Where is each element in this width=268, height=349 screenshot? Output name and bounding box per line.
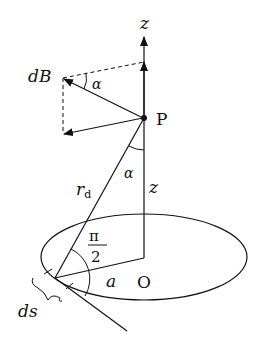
alpha-top-label: α <box>92 76 102 92</box>
dB-arrow <box>64 79 143 118</box>
z-axis-label: z <box>139 13 150 33</box>
two-label: 2 <box>91 248 101 266</box>
origin-label: O <box>137 272 151 292</box>
dB-label: dB <box>28 66 51 86</box>
dashed-top <box>63 62 144 78</box>
r-d-label: rd <box>76 179 91 201</box>
pi-label: π <box>89 227 99 245</box>
ds-label: ds <box>18 301 38 321</box>
loop-field-diagram: z dB α P α rd z π 2 a O ds <box>0 0 268 349</box>
P-label: P <box>156 109 167 129</box>
alpha-arc-mid <box>129 146 144 150</box>
tangent-line <box>55 278 127 331</box>
alpha-arc-top <box>84 73 87 89</box>
ds-brace <box>32 278 62 301</box>
dB-perp-arrow <box>64 118 143 134</box>
alpha-mid-label: α <box>124 165 134 181</box>
z-distance-label: z <box>148 177 159 197</box>
radius-label: a <box>106 271 116 291</box>
